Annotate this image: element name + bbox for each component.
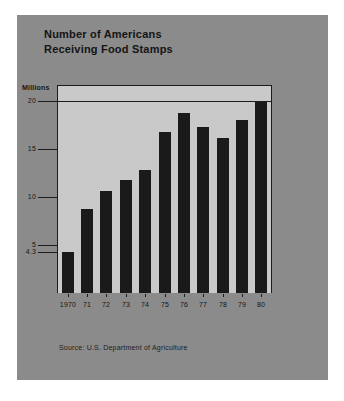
bar: [81, 209, 93, 293]
bar: [197, 127, 209, 293]
bar: [159, 132, 171, 293]
y-axis-tick: [38, 149, 58, 150]
y-axis-tick: [38, 252, 58, 253]
bar: [217, 138, 229, 293]
x-axis-tick: [261, 294, 262, 297]
y-axis-tick: [38, 245, 58, 246]
x-axis-tick: [145, 294, 146, 297]
y-axis-tick-label: 4.3: [8, 248, 36, 255]
x-axis-tick: [165, 294, 166, 297]
x-axis-tick: [203, 294, 204, 297]
y-axis-unit-label: Millions: [22, 84, 50, 91]
x-axis-tick: [223, 294, 224, 297]
y-axis-tick-label: 20: [8, 97, 36, 104]
bar: [178, 113, 190, 293]
bar: [139, 170, 151, 293]
axis-rule-20: [38, 101, 272, 102]
source-note: Source: U.S. Department of Agriculture: [59, 344, 188, 351]
y-axis-tick-label: 15: [8, 145, 36, 152]
x-axis-tick: [184, 294, 185, 297]
chart-title: Number of Americans Receiving Food Stamp…: [44, 27, 284, 57]
bar: [100, 191, 112, 293]
bar: [62, 252, 74, 293]
bar: [236, 120, 248, 293]
y-axis-tick-label: 10: [8, 193, 36, 200]
y-axis-tick: [38, 197, 58, 198]
bar: [255, 101, 267, 293]
x-axis-tick: [126, 294, 127, 297]
chart-title-line-2: Receiving Food Stamps: [44, 42, 284, 57]
chart-title-line-1: Number of Americans: [44, 27, 284, 42]
x-axis-label: 80: [247, 301, 275, 308]
bar: [120, 180, 132, 293]
x-axis-tick: [242, 294, 243, 297]
x-axis-tick: [87, 294, 88, 297]
x-axis-tick: [106, 294, 107, 297]
x-axis-tick: [68, 294, 69, 297]
plot-area: [58, 86, 271, 293]
chart-screenshot: Number of Americans Receiving Food Stamp…: [0, 0, 344, 401]
